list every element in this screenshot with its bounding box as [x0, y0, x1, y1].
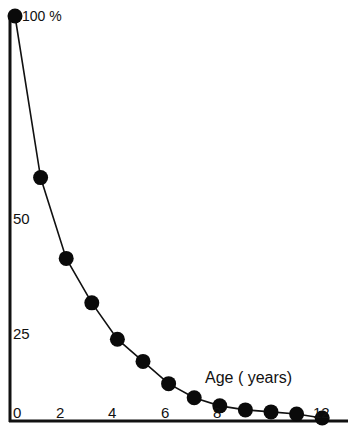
- data-point: [84, 295, 99, 310]
- data-point: [59, 251, 74, 266]
- survival-curve: [15, 16, 322, 418]
- x-tick-4: 4: [108, 404, 116, 421]
- y-tick-50: 50: [13, 210, 30, 227]
- data-point: [264, 404, 279, 419]
- x-axis-label: Age ( years): [205, 369, 292, 387]
- x-tick-0: 0: [13, 404, 21, 421]
- data-point: [8, 9, 23, 24]
- chart-plot: [0, 0, 359, 430]
- data-point: [187, 390, 202, 405]
- data-point: [136, 354, 151, 369]
- data-point: [238, 402, 253, 417]
- data-point: [161, 376, 176, 391]
- data-points: [8, 9, 330, 426]
- x-tick-2: 2: [56, 404, 64, 421]
- x-tick-6: 6: [161, 404, 169, 421]
- data-point: [110, 332, 125, 347]
- y-tick-25: 25: [13, 325, 30, 342]
- y-tick-100: 100 %: [22, 8, 62, 24]
- x-tick-8: 8: [213, 404, 221, 421]
- data-point: [289, 406, 304, 421]
- data-point: [33, 170, 48, 185]
- x-tick-12: 12: [313, 404, 330, 421]
